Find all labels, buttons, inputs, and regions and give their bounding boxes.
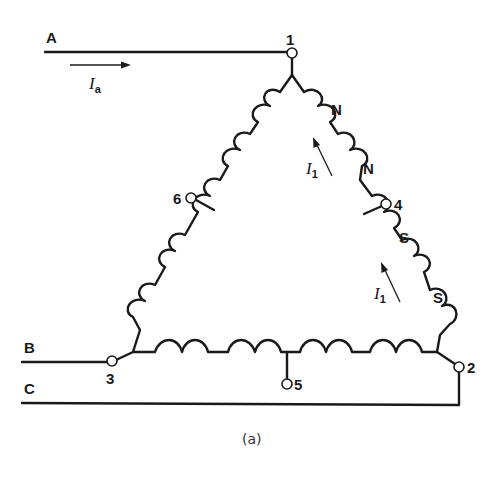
terminal-3-label: 3 — [106, 371, 114, 386]
current-arrow-i1-upper — [316, 143, 332, 176]
pole-n-label: N — [363, 161, 374, 176]
terminal-5-label: 5 — [294, 377, 302, 392]
line-c-label: C — [24, 381, 35, 396]
terminal-2-label: 2 — [467, 360, 475, 375]
arrowhead-icon — [121, 62, 131, 69]
terminal-6-label: 6 — [173, 191, 181, 206]
bottom-side-winding — [133, 340, 437, 352]
current-arrow-i1-lower — [384, 268, 400, 302]
corner-2-link — [437, 352, 455, 364]
left-side-winding — [128, 75, 292, 352]
terminal-1 — [287, 48, 297, 58]
pole-n-label: N — [331, 102, 342, 117]
terminal-4-label: 4 — [394, 197, 402, 212]
current-ia-label: Ia — [89, 75, 101, 95]
pole-s-label: S — [399, 230, 409, 245]
pole-s-label: S — [433, 290, 443, 305]
terminal-6 — [186, 193, 196, 203]
tap-6-wire — [196, 200, 214, 210]
arrowhead-icon — [381, 262, 388, 273]
delta-winding-diagram — [0, 0, 501, 477]
line-b-label: B — [24, 340, 35, 355]
line-c-wire — [22, 372, 459, 405]
current-i1-upper-label: I1 — [306, 160, 318, 180]
terminal-3 — [107, 356, 117, 366]
terminal-1-label: 1 — [286, 32, 294, 47]
figure-caption: (a) — [242, 431, 262, 447]
corner-3-link — [116, 352, 133, 360]
terminal-4 — [381, 199, 391, 209]
tap-4-wire — [364, 206, 382, 214]
line-a-label: A — [46, 30, 57, 45]
right-side-winding — [292, 75, 456, 352]
current-i1-lower-label: I1 — [374, 285, 386, 305]
terminal-5 — [282, 379, 292, 389]
terminal-2 — [454, 362, 464, 372]
arrowhead-icon — [313, 137, 320, 148]
